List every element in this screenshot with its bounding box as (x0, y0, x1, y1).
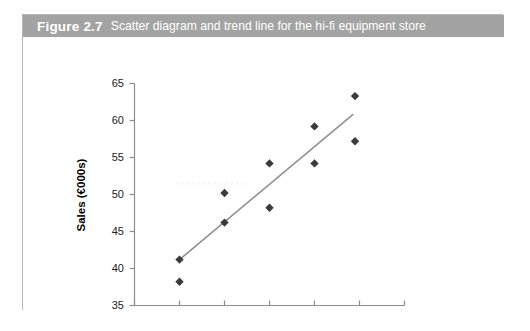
y-tick-label: 50 (112, 188, 124, 200)
data-point-marker (175, 278, 183, 286)
chart-canvas: • • • • • • • • • • • • • (23, 37, 504, 310)
data-point-marker (265, 204, 273, 212)
data-point-marker (265, 159, 273, 167)
y-axis: 65 60 55 50 45 40 35 Sales (€000s) (75, 77, 135, 310)
figure-body: • • • • • • • • • • • • • (23, 37, 504, 310)
page-bleed-artifact: • • • • • • • • • • • • • (175, 178, 245, 189)
data-point-marker (310, 122, 318, 130)
x-axis-ticks (135, 301, 405, 306)
y-tick-label: 35 (112, 299, 124, 310)
y-tick-label: 40 (112, 262, 124, 274)
scatter-chart: • • • • • • • • • • • • • (23, 37, 504, 310)
y-tick-label: 55 (112, 151, 124, 163)
y-tick-label: 65 (112, 77, 124, 89)
figure-number-label: Figure 2.7 (37, 19, 103, 34)
y-axis-ticks (130, 84, 135, 306)
data-point-marker (351, 137, 359, 145)
data-point-marker (351, 92, 359, 100)
x-axis: 0 1 2 3 4 5 6 Number of Commercials (131, 301, 407, 311)
data-point-marker (220, 189, 228, 197)
figure-caption: Scatter diagram and trend line for the h… (111, 19, 426, 33)
y-axis-title: Sales (€000s) (75, 158, 87, 231)
figure-header: Figure 2.7 Scatter diagram and trend lin… (23, 15, 504, 37)
figure-box: Figure 2.7 Scatter diagram and trend lin… (22, 14, 503, 310)
svg-text:• • • • • • • • • • • • •: • • • • • • • • • • • • • (175, 178, 245, 189)
data-point-marker (310, 159, 318, 167)
y-tick-label: 60 (112, 114, 124, 126)
y-tick-label: 45 (112, 225, 124, 237)
y-axis-tick-labels: 65 60 55 50 45 40 35 (112, 77, 124, 310)
